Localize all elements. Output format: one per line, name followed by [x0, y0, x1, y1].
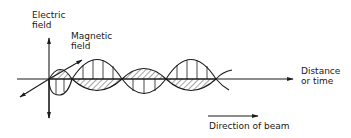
em-wave-diagram: Electricfield Magneticfield Distanceor t… — [0, 0, 351, 138]
magnetic-axis-back — [20, 79, 49, 97]
direction-label: Direction of beam — [209, 121, 290, 131]
distance-label: Distanceor time — [301, 66, 340, 86]
magnetic-field-label: Magneticfield — [71, 31, 112, 51]
electric-field-label: Electricfield — [32, 10, 65, 30]
